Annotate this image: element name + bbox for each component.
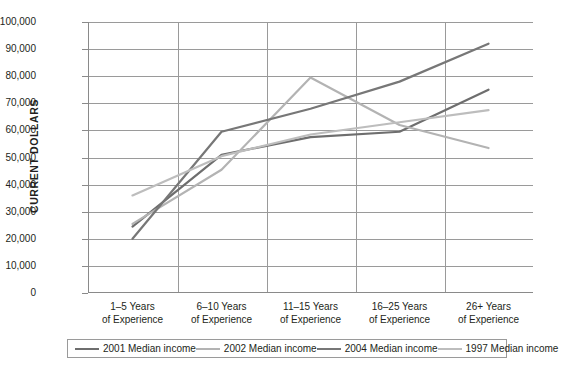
y-axis-label: 90,000	[0, 44, 36, 54]
x-axis-label-line2: of Experience	[434, 313, 544, 326]
y-axis-label: 40,000	[0, 180, 36, 190]
legend-swatch-line-icon	[317, 348, 341, 350]
x-axis-label-line1: 6–10 Years	[196, 301, 246, 312]
y-axis-label: 100,000	[0, 17, 36, 27]
x-axis-label-line1: 1–5 Years	[110, 301, 155, 312]
x-axis-label-line1: 26+ Years	[466, 301, 511, 312]
series-line	[133, 44, 489, 239]
legend-swatch-line-icon	[75, 348, 99, 350]
y-axis-label: 10,000	[0, 261, 36, 271]
y-axis-label: 60,000	[0, 125, 36, 135]
x-axis-label-line1: 16–25 Years	[372, 301, 428, 312]
y-axis-label: 30,000	[0, 207, 36, 217]
legend-item[interactable]: 2001 Median income	[75, 344, 196, 354]
legend-item[interactable]: 2004 Median income	[317, 344, 438, 354]
y-axis-tick	[82, 293, 88, 294]
y-axis-label: 50,000	[0, 153, 36, 163]
y-axis-label: 0	[0, 288, 36, 298]
legend-swatch-line-icon	[196, 348, 220, 350]
legend-label: 2001 Median income	[103, 344, 196, 354]
y-axis-label: 70,000	[0, 98, 36, 108]
x-axis-label: 26+ Yearsof Experience	[434, 300, 544, 326]
chart-legend: 2001 Median income2002 Median income2004…	[67, 339, 507, 358]
y-axis-label: 80,000	[0, 71, 36, 81]
legend-label: 2002 Median income	[224, 344, 317, 354]
legend-item[interactable]: 2002 Median income	[196, 344, 317, 354]
legend-label: 1997 Median income	[466, 344, 559, 354]
y-axis-label: 20,000	[0, 234, 36, 244]
legend-label: 2004 Median income	[345, 344, 438, 354]
series-line	[133, 90, 489, 227]
chart-container: CURRENT DOLLARS 100,00090,00080,00070,00…	[0, 0, 573, 368]
series-lines	[88, 22, 533, 293]
legend-swatch-line-icon	[438, 348, 462, 350]
series-line	[133, 78, 489, 224]
legend-item[interactable]: 1997 Median income	[438, 344, 559, 354]
x-axis-label-line1: 11–15 Years	[283, 301, 338, 312]
